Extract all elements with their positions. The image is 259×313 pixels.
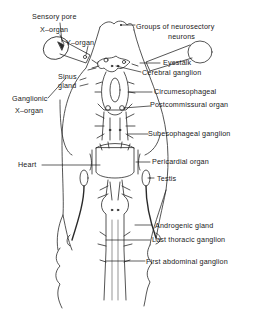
label-circumesophageal: Circumesophageal bbox=[154, 88, 216, 96]
label-gland: gland bbox=[58, 82, 76, 90]
label-neurons: neurons bbox=[168, 33, 195, 41]
label-androgenic-gland: Androgenic gland bbox=[155, 222, 213, 230]
label-subesophageal-ganglion: Subesophageal ganglion bbox=[148, 130, 230, 138]
circumesophageal-connectives bbox=[95, 72, 135, 110]
label-postcommissural-organ: Postcommissural organ bbox=[150, 101, 228, 109]
label-ganglionic-x-organ: X–organ bbox=[15, 107, 43, 115]
anatomy-drawing bbox=[0, 0, 259, 313]
label-first-abdominal-ganglion: First abdominal ganglion bbox=[146, 258, 228, 266]
neuroendocrine-diagram: Sensory pore X–organ Y–organ Groups of n… bbox=[0, 0, 259, 313]
testes bbox=[67, 170, 161, 246]
label-cerebral-ganglion: Cerebral ganglion bbox=[142, 69, 201, 77]
label-pericardial-organ: Pericardial organ bbox=[152, 158, 209, 166]
label-y-organ: Y–organ bbox=[66, 39, 94, 47]
label-heart: Heart bbox=[18, 161, 36, 169]
heart bbox=[90, 142, 140, 178]
label-groups-neurosecretory: Groups of neurosectory bbox=[136, 23, 214, 31]
label-x-organ: X–organ bbox=[40, 26, 68, 34]
label-sensory-pore: Sensory pore bbox=[32, 13, 77, 21]
label-ganglionic: Ganglionic bbox=[12, 95, 47, 103]
label-sinus: Sinus bbox=[58, 73, 77, 81]
label-eyestalk: Eyestalk bbox=[163, 59, 191, 67]
subesophageal-ganglion bbox=[95, 112, 135, 140]
label-testis: Testis bbox=[157, 175, 176, 183]
label-last-thoracic-ganglion: Last thoracic ganglion bbox=[152, 236, 225, 244]
